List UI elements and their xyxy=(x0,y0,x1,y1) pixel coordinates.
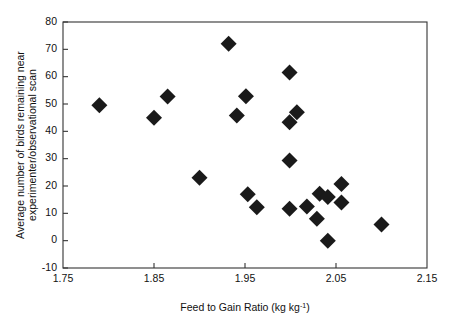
y-axis-title-line1: Average number of birds remaining near xyxy=(14,51,26,239)
y-tick-label: 70 xyxy=(45,42,57,54)
x-axis-title: Feed to Gain Ratio (kg kg-1) xyxy=(180,301,309,313)
x-tick-label: 1.75 xyxy=(53,272,74,284)
chart-figure: -1001020304050607080 1.751.851.952.052.1… xyxy=(0,0,452,326)
x-tick-label: 2.05 xyxy=(326,272,347,284)
y-tick-label: -10 xyxy=(42,261,57,273)
x-tick-label: 1.85 xyxy=(144,272,165,284)
y-tick-label: 0 xyxy=(51,233,57,245)
scatter-plot-svg: -1001020304050607080 1.751.851.952.052.1… xyxy=(0,0,452,326)
y-axis-title: Average number of birds remaining near e… xyxy=(14,51,38,239)
y-tick-label: 60 xyxy=(45,69,57,81)
y-tick-label: 40 xyxy=(45,124,57,136)
x-tick-label: 1.95 xyxy=(235,272,256,284)
x-tick-label: 2.15 xyxy=(417,272,438,284)
y-tick-label: 50 xyxy=(45,97,57,109)
y-tick-label: 10 xyxy=(45,206,57,218)
y-tick-label: 80 xyxy=(45,15,57,27)
y-tick-label: 30 xyxy=(45,151,57,163)
y-axis-title-line2: experimenter/observational scan xyxy=(26,69,38,221)
y-tick-label: 20 xyxy=(45,179,57,191)
